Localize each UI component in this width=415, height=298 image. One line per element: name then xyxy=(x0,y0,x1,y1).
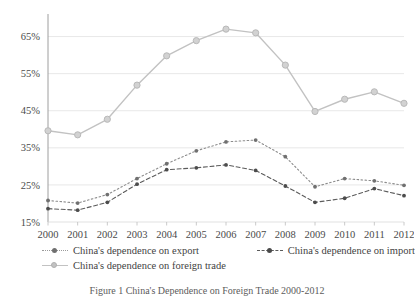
data-point-marker xyxy=(224,140,228,144)
data-point-marker xyxy=(193,38,199,44)
chart-legend: China's dependence on export China's dep… xyxy=(0,243,414,281)
x-axis-tick-label: 2000 xyxy=(38,229,59,240)
data-point-marker xyxy=(105,193,109,197)
data-point-marker xyxy=(371,89,377,95)
data-point-marker xyxy=(342,96,348,102)
figure-caption: Figure 1 China's Dependence on Foreign T… xyxy=(0,284,414,298)
series-line xyxy=(48,29,404,135)
y-axis-tick-label: 15% xyxy=(21,217,41,228)
y-axis-tick-label: 25% xyxy=(21,180,41,191)
data-point-marker xyxy=(194,149,198,153)
data-point-marker xyxy=(45,128,51,134)
data-point-marker xyxy=(343,196,347,200)
legend-item-foreign-trade[interactable]: China's dependence on foreign trade xyxy=(42,260,226,271)
x-axis-tick-label: 2007 xyxy=(245,229,266,240)
data-point-marker xyxy=(164,53,170,59)
data-point-marker xyxy=(254,138,258,142)
data-point-marker xyxy=(135,182,139,186)
data-point-marker xyxy=(283,155,287,159)
x-axis-tick-label: 2002 xyxy=(97,229,118,240)
line-chart: 15%25%35%45%55%65%2000200120022003200420… xyxy=(0,0,414,240)
x-axis-tick-label: 2009 xyxy=(305,229,326,240)
data-point-marker xyxy=(401,100,407,106)
series-line xyxy=(48,140,404,203)
legend-key-import-icon xyxy=(257,246,283,256)
data-point-marker xyxy=(75,132,81,138)
data-point-marker xyxy=(135,177,139,181)
x-axis-tick-label: 2011 xyxy=(364,229,385,240)
legend-label-export: China's dependence on export xyxy=(73,245,199,256)
data-point-marker xyxy=(254,169,258,173)
data-point-marker xyxy=(282,62,288,68)
x-axis-tick-label: 2008 xyxy=(275,229,296,240)
x-axis-tick-label: 2005 xyxy=(186,229,207,240)
data-point-marker xyxy=(224,163,228,167)
legend-item-export[interactable]: China's dependence on export xyxy=(42,245,199,256)
data-point-marker xyxy=(104,116,110,122)
x-axis-tick-label: 2010 xyxy=(334,229,355,240)
data-point-marker xyxy=(134,82,140,88)
x-axis-tick-label: 2004 xyxy=(156,229,178,240)
data-point-marker xyxy=(343,177,347,181)
data-point-marker xyxy=(223,26,229,32)
legend-key-foreign-trade-icon xyxy=(42,261,68,271)
y-axis-tick-label: 65% xyxy=(21,31,41,42)
data-point-marker xyxy=(372,179,376,183)
x-axis-tick-label: 2003 xyxy=(127,229,148,240)
data-point-marker xyxy=(402,194,406,198)
data-point-marker xyxy=(372,187,376,191)
data-point-marker xyxy=(312,108,318,114)
data-point-marker xyxy=(313,200,317,204)
data-point-marker xyxy=(194,166,198,170)
x-axis-tick-label: 2006 xyxy=(216,229,237,240)
x-axis-tick-label: 2001 xyxy=(67,229,88,240)
data-point-marker xyxy=(283,184,287,188)
chart-canvas: 15%25%35%45%55%65%2000200120022003200420… xyxy=(0,0,414,240)
legend-label-import: China's dependence on import xyxy=(288,245,415,256)
data-point-marker xyxy=(253,30,259,36)
series-line xyxy=(48,165,404,210)
data-point-marker xyxy=(165,162,169,166)
data-point-marker xyxy=(313,185,317,189)
data-point-marker xyxy=(165,168,169,172)
data-point-marker xyxy=(402,183,406,187)
data-point-marker xyxy=(46,207,50,211)
data-point-marker xyxy=(105,200,109,204)
legend-row-1: China's dependence on export China's dep… xyxy=(0,243,414,258)
data-point-marker xyxy=(76,208,80,212)
y-axis-tick-label: 35% xyxy=(21,142,41,153)
y-axis-tick-label: 45% xyxy=(21,105,41,116)
legend-row-2: China's dependence on foreign trade xyxy=(0,258,414,273)
data-point-marker xyxy=(46,199,50,203)
x-axis-tick-label: 2012 xyxy=(394,229,415,240)
legend-item-import[interactable]: China's dependence on import xyxy=(257,245,415,256)
legend-label-foreign-trade: China's dependence on foreign trade xyxy=(73,260,226,271)
data-point-marker xyxy=(76,201,80,205)
legend-key-export-icon xyxy=(42,246,68,256)
y-axis-tick-label: 55% xyxy=(21,68,41,79)
